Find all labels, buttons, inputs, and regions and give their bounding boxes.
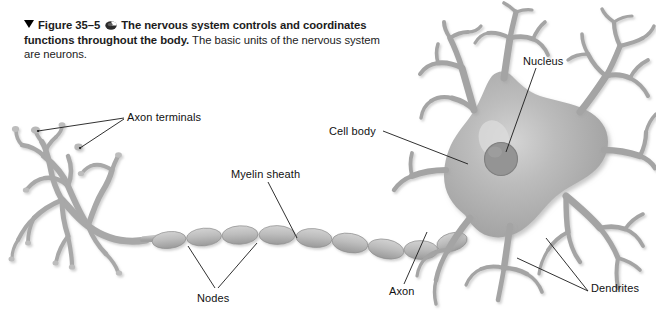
label-nodes: Nodes (197, 292, 229, 304)
leader-node-1 (188, 246, 215, 288)
terminal-bulb (115, 152, 122, 158)
leader-node-2 (218, 243, 257, 288)
leader-axon-terminal-1 (38, 118, 124, 131)
myelin-segment (366, 236, 405, 262)
myelin-segment (259, 225, 295, 244)
terminal-bulb (12, 126, 19, 132)
terminal-bulb (69, 264, 75, 269)
terminal-bulb (9, 257, 15, 262)
terminal-bulb (53, 261, 59, 266)
terminal-bulb (116, 270, 122, 275)
label-dendrites: Dendrites (591, 282, 639, 294)
terminal-bulb (31, 126, 40, 133)
axon-terminals-group (9, 122, 147, 275)
myelin-segment (295, 227, 333, 249)
nucleus-sheen (488, 147, 502, 158)
label-nucleus: Nucleus (523, 55, 563, 67)
terminal-bulb (25, 241, 31, 246)
myelin-segment (222, 225, 259, 245)
myelin-segment (186, 227, 222, 248)
terminal-bulb (23, 187, 29, 192)
myelin-segment (151, 230, 187, 250)
label-myelin-sheath: Myelin sheath (231, 168, 300, 180)
figure-35-5: Figure 35–5 The nervous system controls … (0, 0, 656, 320)
label-axon: Axon (389, 285, 414, 297)
neuron-illustration (0, 0, 656, 320)
label-axon-terminals: Axon terminals (127, 111, 201, 123)
myelin-segment (404, 240, 439, 260)
terminal-bulb (78, 171, 84, 176)
myelin-segment (331, 231, 370, 256)
leader-dendrite-2 (546, 238, 588, 291)
label-cell-body: Cell body (329, 125, 376, 137)
